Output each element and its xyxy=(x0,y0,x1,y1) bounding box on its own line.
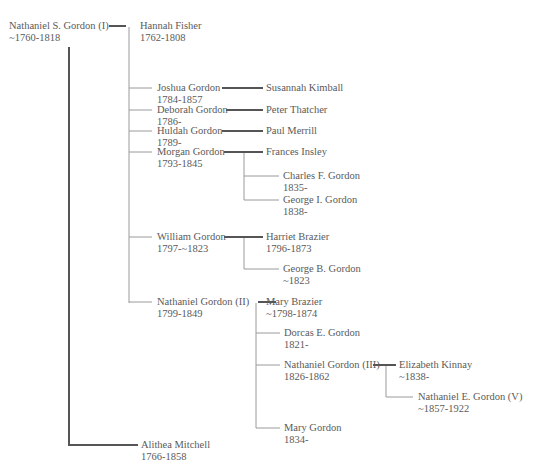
person-nathaniel-e-gordon-v: Nathaniel E. Gordon (V) ~1857-1922 xyxy=(418,391,522,415)
person-charles-f-gordon: Charles F. Gordon 1835- xyxy=(283,170,360,194)
person-name: Susannah Kimball xyxy=(266,82,343,94)
person-alithea-mitchell: Alithea Mitchell 1766-1858 xyxy=(141,439,210,463)
person-dates: 1834- xyxy=(284,434,341,446)
person-name: Morgan Gordon xyxy=(157,146,225,158)
person-name: Paul Merrill xyxy=(266,125,317,137)
person-dates: 1821- xyxy=(284,339,360,351)
person-joshua-gordon: Joshua Gordon 1784-1857 xyxy=(157,82,220,106)
person-dates: 1796-1873 xyxy=(266,243,329,255)
person-dorcas-e-gordon: Dorcas E. Gordon 1821- xyxy=(284,327,360,351)
person-george-i-gordon: George I. Gordon 1838- xyxy=(283,194,357,218)
person-frances-insley: Frances Insley xyxy=(266,146,327,158)
person-mary-brazier: Mary Brazier ~1798-1874 xyxy=(266,296,322,320)
person-dates: 1799-1849 xyxy=(157,308,249,320)
person-name: George I. Gordon xyxy=(283,194,357,206)
person-name: Peter Thatcher xyxy=(266,104,327,116)
person-nathaniel-gordon-iii: Nathaniel Gordon (III) 1826-1862 xyxy=(284,359,380,383)
person-name: Hannah Fisher xyxy=(140,20,202,32)
person-nathaniel-s-gordon: Nathaniel S. Gordon (I) ~1760-1818 xyxy=(9,20,109,44)
person-paul-merrill: Paul Merrill xyxy=(266,125,317,137)
family-tree-diagram: Nathaniel S. Gordon (I) ~1760-1818 Hanna… xyxy=(0,0,537,475)
person-name: George B. Gordon xyxy=(283,263,361,275)
person-name: Nathaniel S. Gordon (I) xyxy=(9,20,109,32)
person-name: Alithea Mitchell xyxy=(141,439,210,451)
person-name: Joshua Gordon xyxy=(157,82,220,94)
person-name: Charles F. Gordon xyxy=(283,170,360,182)
person-name: Dorcas E. Gordon xyxy=(284,327,360,339)
person-dates: 1835- xyxy=(283,182,360,194)
person-george-b-gordon: George B. Gordon ~1823 xyxy=(283,263,361,287)
person-nathaniel-gordon-ii: Nathaniel Gordon (II) 1799-1849 xyxy=(157,296,249,320)
person-name: Elizabeth Kinnay xyxy=(399,359,472,371)
person-name: Mary Brazier xyxy=(266,296,322,308)
person-name: Deborah Gordon xyxy=(157,104,228,116)
person-name: Nathaniel Gordon (II) xyxy=(157,296,249,308)
person-dates: 1826-1862 xyxy=(284,371,380,383)
person-dates: 1797-~1823 xyxy=(157,243,226,255)
person-name: Frances Insley xyxy=(266,146,327,158)
person-dates: ~1857-1922 xyxy=(418,403,522,415)
person-morgan-gordon: Morgan Gordon 1793-1845 xyxy=(157,146,225,170)
person-name: Huldah Gordon xyxy=(157,125,223,137)
person-name: Nathaniel E. Gordon (V) xyxy=(418,391,522,403)
person-name: Harriet Brazier xyxy=(266,231,329,243)
person-dates: 1766-1858 xyxy=(141,451,210,463)
person-mary-gordon: Mary Gordon 1834- xyxy=(284,422,341,446)
person-william-gordon: William Gordon 1797-~1823 xyxy=(157,231,226,255)
person-dates: ~1760-1818 xyxy=(9,32,109,44)
person-susannah-kimball: Susannah Kimball xyxy=(266,82,343,94)
person-harriet-brazier: Harriet Brazier 1796-1873 xyxy=(266,231,329,255)
person-dates: 1762-1808 xyxy=(140,32,202,44)
person-dates: ~1823 xyxy=(283,275,361,287)
person-hannah-fisher: Hannah Fisher 1762-1808 xyxy=(140,20,202,44)
person-peter-thatcher: Peter Thatcher xyxy=(266,104,327,116)
person-elizabeth-kinnay: Elizabeth Kinnay ~1838- xyxy=(399,359,472,383)
person-dates: ~1798-1874 xyxy=(266,308,322,320)
person-dates: 1793-1845 xyxy=(157,158,225,170)
person-name: Nathaniel Gordon (III) xyxy=(284,359,380,371)
person-dates: 1838- xyxy=(283,206,357,218)
person-dates: ~1838- xyxy=(399,371,472,383)
person-name: William Gordon xyxy=(157,231,226,243)
person-name: Mary Gordon xyxy=(284,422,341,434)
